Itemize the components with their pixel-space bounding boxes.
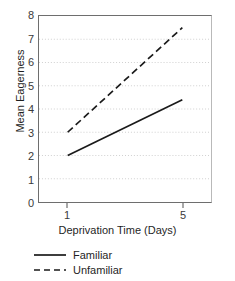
series-line-familiar xyxy=(68,100,183,156)
y-axis-tick-label: 6 xyxy=(18,57,34,68)
legend-item-label: Familiar xyxy=(67,249,112,261)
x-axis-tick-label: 1 xyxy=(52,209,82,222)
y-axis-tick-label: 2 xyxy=(18,151,34,162)
chart-legend: FamiliarUnfamiliar xyxy=(33,247,183,277)
legend-item: Unfamiliar xyxy=(33,262,183,277)
plot-area xyxy=(38,15,212,203)
chart-figure: Mean Eagerness 012345678 15 Deprivation … xyxy=(0,0,235,281)
y-axis-tick-label: 1 xyxy=(18,174,34,185)
legend-line-swatch-solid xyxy=(33,250,67,260)
data-series-layer xyxy=(39,16,211,202)
y-axis-tick-label: 5 xyxy=(18,80,34,91)
legend-item-label: Unfamiliar xyxy=(67,264,123,276)
y-axis-tick-label: 4 xyxy=(18,104,34,115)
y-axis-tick-label: 8 xyxy=(18,10,34,21)
series-line-unfamiliar xyxy=(68,28,183,133)
legend-item: Familiar xyxy=(33,247,183,262)
y-axis-tick-label: 0 xyxy=(18,198,34,209)
legend-line-swatch-dashed xyxy=(33,265,67,275)
y-axis-tick-label: 3 xyxy=(18,127,34,138)
y-axis-tick-label: 7 xyxy=(18,33,34,44)
x-axis-title: Deprivation Time (Days) xyxy=(0,224,235,236)
x-axis-tick-labels: 15 xyxy=(38,209,212,223)
y-axis-tick-labels: 012345678 xyxy=(14,15,34,203)
x-axis-tick-label: 5 xyxy=(168,209,198,222)
